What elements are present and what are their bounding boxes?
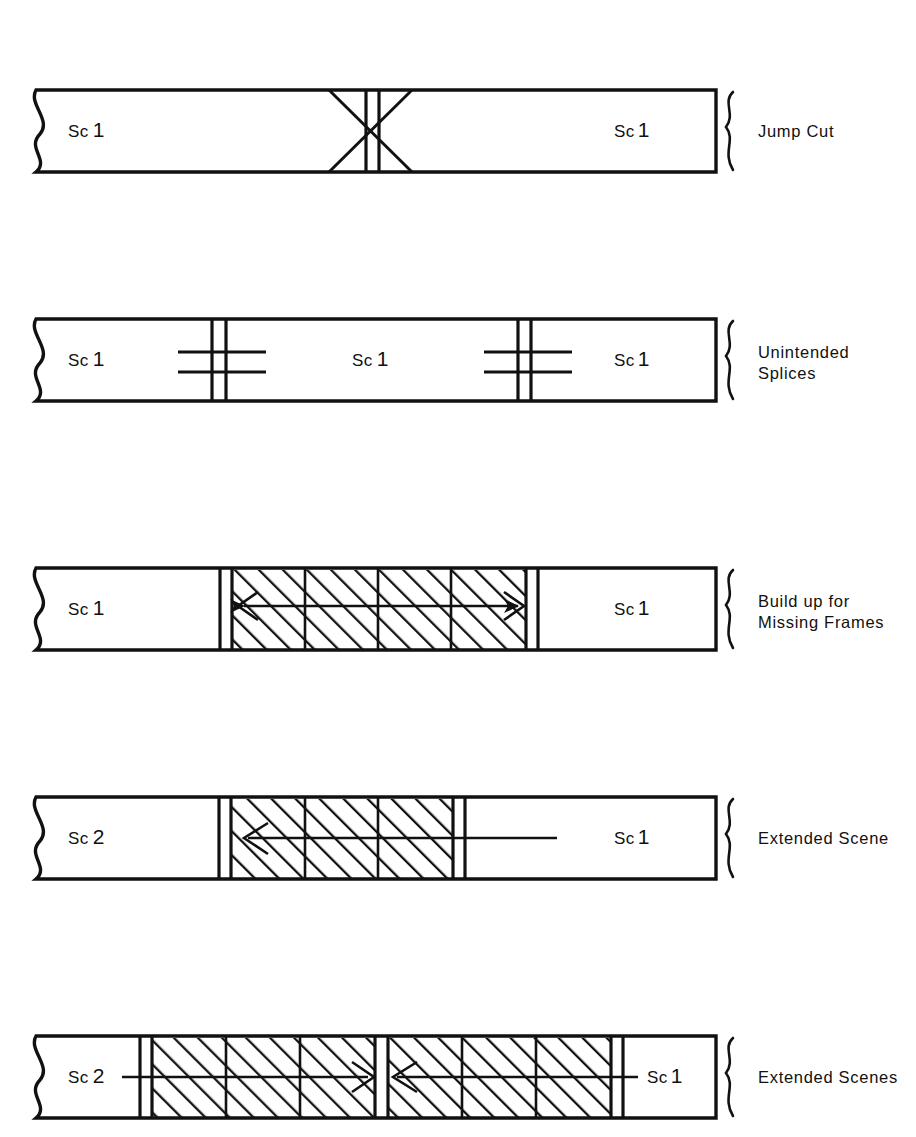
film-strip-row-extended-scenes: Sc2 Sc1 Extended Scenes	[34, 1036, 898, 1118]
scene-label-right: Sc1	[647, 1064, 683, 1087]
film-strip-row-extended-scene: Sc2 Sc1 Extended Scene	[34, 797, 889, 879]
scene-label-left: Sc2	[68, 825, 105, 848]
scene-label-left: Sc1	[68, 347, 105, 370]
scene-label-right: Sc1	[614, 118, 650, 141]
row-annotation: Extended Scenes	[758, 1068, 898, 1086]
brace-icon	[726, 92, 733, 170]
scene-label-right: Sc1	[614, 596, 650, 619]
scene-label-middle: Sc1	[352, 347, 389, 370]
row-annotation: Jump Cut	[758, 122, 834, 140]
row-annotation: Extended Scene	[758, 829, 889, 847]
scene-label-right: Sc1	[614, 347, 650, 370]
film-splice-diagram: Sc1 Sc1 Jump Cut Sc1 Sc1 Sc1	[0, 0, 916, 1137]
scene-label-left: Sc1	[68, 118, 105, 141]
scene-label-left: Sc1	[68, 596, 105, 619]
brace-icon	[726, 1038, 733, 1116]
brace-icon	[726, 321, 733, 399]
film-strip-row-jump-cut: Sc1 Sc1 Jump Cut	[34, 90, 834, 172]
row-annotation: Unintended Splices	[758, 343, 855, 382]
brace-icon	[726, 799, 733, 877]
scene-label-right: Sc1	[614, 825, 650, 848]
film-strip-row-build-up: Sc1 Sc1 Build up for Missing Frames	[34, 568, 884, 650]
scene-label-left: Sc2	[68, 1064, 105, 1087]
row-annotation: Build up for Missing Frames	[758, 592, 884, 631]
brace-icon	[726, 570, 733, 648]
film-strip-row-unintended-splices: Sc1 Sc1 Sc1 Unintended Splices	[34, 319, 854, 401]
